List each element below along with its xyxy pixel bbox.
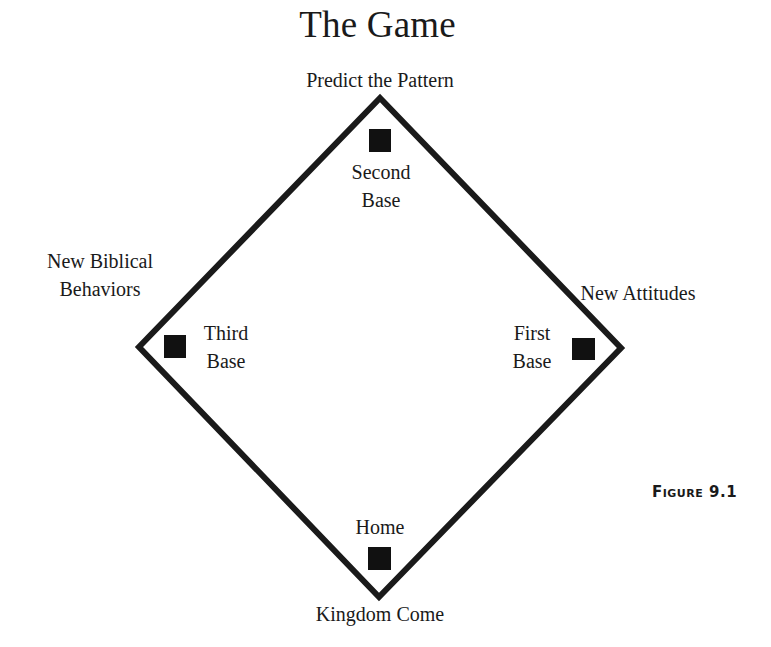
- second-base-marker: [369, 129, 391, 152]
- first-base-marker: [572, 338, 595, 360]
- label-first-base: First Base: [492, 319, 572, 375]
- label-new-biblical-behaviors: New Biblical Behaviors: [30, 247, 170, 303]
- label-line: Base: [331, 186, 431, 214]
- label-second-base: Second Base: [331, 158, 431, 214]
- label-predict-the-pattern: Predict the Pattern: [230, 66, 530, 94]
- label-home: Home: [330, 513, 430, 541]
- label-line: Second: [331, 158, 431, 186]
- label-line: Base: [492, 347, 572, 375]
- label-line: New Biblical: [30, 247, 170, 275]
- label-line: Base: [186, 347, 266, 375]
- figure-number-label: Figure 9.1: [652, 482, 737, 502]
- home-base-marker: [368, 547, 391, 570]
- label-line: Behaviors: [30, 275, 170, 303]
- figure-number: 9.1: [709, 483, 737, 501]
- label-third-base: Third Base: [186, 319, 266, 375]
- label-line: Third: [186, 319, 266, 347]
- label-kingdom-come: Kingdom Come: [230, 600, 530, 628]
- diamond-diagram: [0, 0, 771, 647]
- label-new-attitudes: New Attitudes: [548, 279, 728, 307]
- baseball-diamond-figure: The Game Predict the Pattern Second Base…: [0, 0, 771, 647]
- third-base-marker: [164, 335, 186, 358]
- label-line: Home: [330, 513, 430, 541]
- figure-title: The Game: [0, 3, 755, 47]
- label-line: First: [492, 319, 572, 347]
- figure-word: Figure: [652, 483, 703, 501]
